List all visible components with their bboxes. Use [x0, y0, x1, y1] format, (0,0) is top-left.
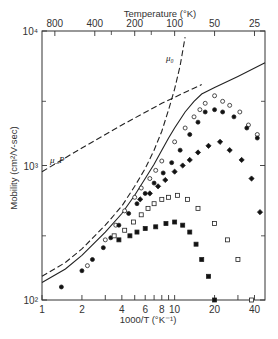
x-tick-label: 2: [79, 304, 85, 315]
theory-curves: [42, 37, 265, 282]
circle-marker: [123, 209, 127, 213]
square-marker: [154, 225, 158, 229]
circle-marker: [255, 136, 259, 140]
y-tick-label: 10⁴: [23, 26, 38, 37]
square-marker: [200, 258, 204, 262]
circle-marker: [196, 120, 200, 124]
square-marker: [160, 197, 164, 201]
square-marker: [167, 195, 171, 199]
x-tick-label: 40: [249, 304, 261, 315]
circle-marker: [203, 110, 207, 114]
x-axis-title: 1000/T (°K⁻¹): [120, 314, 177, 325]
square-marker: [175, 193, 179, 197]
square-marker: [128, 234, 132, 238]
square-marker: [112, 234, 116, 238]
circle-marker: [85, 264, 89, 268]
diamond-marker: [155, 184, 160, 189]
circle-marker: [90, 258, 94, 262]
square-marker: [139, 213, 143, 217]
circle-marker: [228, 103, 232, 107]
circle-marker: [143, 191, 147, 195]
circle-marker: [154, 168, 158, 172]
top-tick-label: 100: [166, 18, 183, 29]
diamond-marker: [227, 148, 232, 153]
circle-marker: [188, 133, 192, 137]
square-marker: [123, 228, 127, 232]
square-marker: [117, 238, 121, 242]
diamond-marker: [180, 163, 185, 168]
diamond-marker: [257, 210, 262, 215]
circle-marker: [117, 223, 121, 227]
circle-marker: [238, 110, 242, 114]
square-marker: [135, 230, 139, 234]
square-marker: [143, 227, 147, 231]
circle-marker: [203, 101, 207, 105]
x-tick-label: 20: [209, 304, 221, 315]
circle-marker: [245, 126, 249, 130]
square-marker: [225, 238, 229, 242]
circle-marker: [135, 202, 139, 206]
square-marker: [213, 222, 217, 226]
curve-annotation: μ₀: [165, 53, 174, 63]
circle-marker: [139, 186, 143, 190]
diamond-marker: [195, 150, 200, 155]
diamond-marker: [172, 169, 177, 174]
diamond-marker: [187, 157, 192, 162]
dashed-curve: [42, 85, 202, 172]
circle-marker: [198, 108, 202, 112]
circle-marker: [80, 269, 84, 273]
circle-marker: [152, 181, 156, 185]
square-marker: [236, 258, 240, 262]
square-marker: [173, 220, 177, 224]
top-axis-title: Temperature (°K): [124, 8, 196, 19]
top-tick-label: 400: [86, 18, 103, 29]
tick-labels: 1246810204010²10³10⁴8004002001005025μ₀μ_…: [23, 18, 261, 315]
y-tick-label: 10³: [24, 161, 39, 172]
square-marker: [196, 206, 200, 210]
square-marker: [152, 202, 156, 206]
diamond-marker: [239, 157, 244, 162]
diamond-marker: [249, 176, 254, 181]
square-marker: [185, 197, 189, 201]
square-marker: [194, 242, 198, 246]
circle-marker: [213, 94, 217, 98]
circle-marker: [213, 108, 217, 112]
circle-marker: [178, 148, 182, 152]
square-marker: [206, 274, 210, 278]
diamond-marker: [217, 139, 222, 144]
x-tick-label: 1: [39, 304, 45, 315]
solid-curve: [42, 63, 265, 283]
y-tick-label: 10²: [24, 295, 39, 306]
y-axis-title: Mobility (cm²/V-sec): [8, 126, 19, 209]
circle-marker: [183, 126, 187, 130]
data-points: [59, 94, 262, 302]
square-marker: [250, 298, 254, 302]
curve-annotation: μ_P: [49, 155, 65, 165]
circle-marker: [148, 177, 152, 181]
circle-marker: [103, 238, 107, 242]
circle-marker: [133, 195, 137, 199]
circle-marker: [127, 211, 131, 215]
circle-marker: [101, 246, 105, 250]
circle-marker: [170, 161, 174, 165]
square-marker: [132, 220, 136, 224]
circle-marker: [221, 99, 225, 103]
diamond-marker: [147, 191, 152, 196]
circle-marker: [160, 159, 164, 163]
circle-marker: [161, 171, 165, 175]
square-marker: [164, 222, 168, 226]
circle-marker: [59, 285, 63, 289]
square-marker: [188, 230, 192, 234]
square-marker: [181, 223, 185, 227]
square-marker: [213, 298, 217, 302]
diamond-marker: [138, 197, 143, 202]
circle-marker: [192, 115, 196, 119]
top-tick-label: 50: [209, 18, 221, 29]
mobility-chart: 1246810204010²10³10⁴8004002001005025μ₀μ_…: [0, 0, 278, 339]
diamond-marker: [163, 177, 168, 182]
top-tick-label: 800: [47, 18, 64, 29]
top-tick-label: 200: [126, 18, 143, 29]
diamond-marker: [206, 143, 211, 148]
top-tick-label: 25: [249, 18, 261, 29]
circle-marker: [232, 115, 236, 119]
